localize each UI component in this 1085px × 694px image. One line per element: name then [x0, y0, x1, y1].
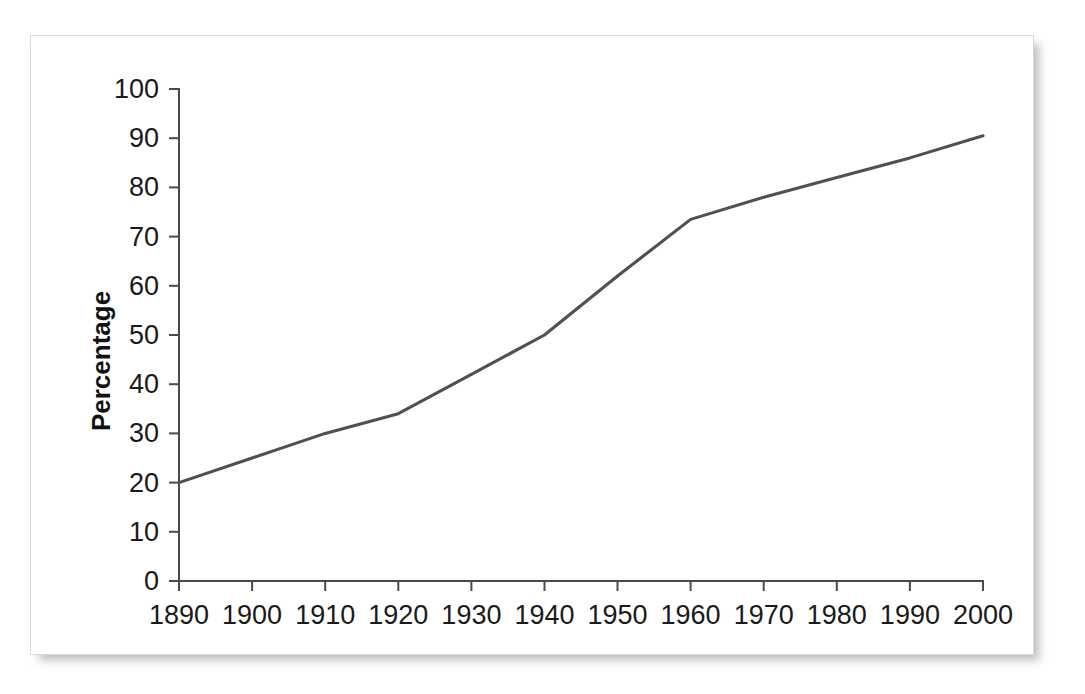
x-tick-label-1970: 1970 — [734, 600, 794, 630]
x-tick-label-1910: 1910 — [295, 600, 355, 630]
y-tick-label-20: 20 — [129, 468, 159, 498]
x-tick-label-1920: 1920 — [368, 600, 428, 630]
line-chart: Percentage 0 10 — [31, 36, 1035, 656]
y-tick-label-60: 60 — [129, 271, 159, 301]
y-axis-tick-labels: 0 10 20 30 40 50 60 70 80 90 100 — [114, 74, 159, 596]
chart-panel: Percentage 0 10 — [30, 35, 1034, 655]
x-tick-label-1960: 1960 — [661, 600, 721, 630]
y-tick-label-100: 100 — [114, 74, 159, 104]
y-tick-label-40: 40 — [129, 369, 159, 399]
x-tick-label-1980: 1980 — [807, 600, 867, 630]
y-tick-label-90: 90 — [129, 123, 159, 153]
data-series-percentage — [179, 136, 983, 483]
y-tick-label-0: 0 — [144, 566, 159, 596]
x-axis-tick-labels: 1890 1900 1910 1920 1930 1940 1950 1960 … — [149, 600, 1013, 630]
x-tick-label-1930: 1930 — [441, 600, 501, 630]
y-tick-label-50: 50 — [129, 320, 159, 350]
x-axis-ticks — [179, 581, 983, 591]
y-tick-label-10: 10 — [129, 517, 159, 547]
y-axis-title-label: Percentage — [86, 291, 116, 431]
figure-root: Percentage 0 10 — [0, 0, 1085, 694]
x-tick-label-2000: 2000 — [953, 600, 1013, 630]
y-axis-ticks — [169, 89, 179, 581]
x-tick-label-1900: 1900 — [222, 600, 282, 630]
y-tick-label-80: 80 — [129, 172, 159, 202]
x-tick-label-1890: 1890 — [149, 600, 209, 630]
x-tick-label-1990: 1990 — [880, 600, 940, 630]
x-tick-label-1940: 1940 — [514, 600, 574, 630]
y-axis-title: Percentage — [86, 291, 116, 431]
y-tick-label-70: 70 — [129, 222, 159, 252]
x-tick-label-1950: 1950 — [587, 600, 647, 630]
y-tick-label-30: 30 — [129, 418, 159, 448]
